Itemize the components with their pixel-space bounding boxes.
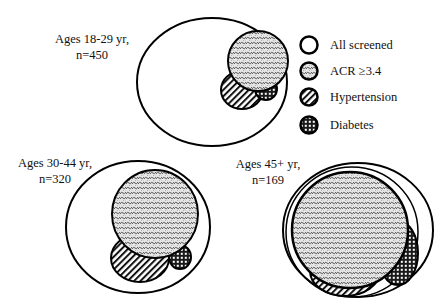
group-label-age: Ages 30-44 yr, — [18, 155, 92, 171]
acr-ellipse — [292, 172, 408, 288]
legend-swatch-acr-icon — [301, 63, 318, 80]
acr-ellipse — [112, 170, 198, 258]
group-label-n: n=169 — [236, 172, 301, 188]
venn-group-45-plus — [283, 163, 433, 297]
acr-ellipse — [228, 31, 288, 91]
group-label-18-29: Ages 18-29 yr, n=450 — [55, 31, 129, 63]
legend-label-acr: ACR ≥3.4 — [330, 63, 381, 79]
group-label-n: n=320 — [18, 171, 92, 187]
legend-swatch-all-screened-icon — [301, 37, 318, 54]
legend-label-hypertension: Hypertension — [330, 89, 397, 105]
venn-group-18-29 — [137, 18, 288, 146]
group-label-45-plus: Ages 45+ yr, n=169 — [236, 156, 301, 188]
legend-swatches — [301, 37, 318, 134]
legend-label-diabetes: Diabetes — [330, 117, 374, 133]
group-label-n: n=450 — [55, 47, 129, 63]
group-label-age: Ages 18-29 yr, — [55, 31, 129, 47]
group-label-30-44: Ages 30-44 yr, n=320 — [18, 155, 92, 187]
legend-swatch-hypertension-icon — [301, 89, 318, 106]
group-label-age: Ages 45+ yr, — [236, 156, 301, 172]
legend-swatch-diabetes-icon — [301, 117, 318, 134]
legend-label-all-screened: All screened — [330, 37, 393, 53]
